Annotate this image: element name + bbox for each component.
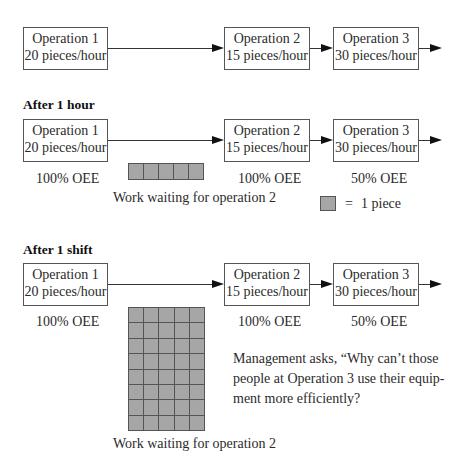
operation-name: Operation 2 (225, 30, 309, 47)
piece-icon (144, 164, 158, 179)
piece-icon (129, 370, 143, 384)
operation-rate: 30 pieces/hour (334, 283, 418, 300)
piece-icon (144, 370, 158, 384)
piece-icon (190, 370, 204, 384)
operation-1-box: Operation 1 20 pieces/hour (23, 27, 108, 70)
operation-2-box: Operation 2 15 pieces/hour (224, 119, 310, 162)
flow-arrow-line (108, 48, 220, 49)
stage-heading: After 1 shift (23, 242, 92, 258)
operation-name: Operation 1 (24, 30, 107, 47)
flow-arrow-line (108, 284, 220, 285)
piece-icon (144, 354, 158, 368)
piece-icon (144, 308, 158, 322)
piece-icon (144, 400, 158, 414)
work-queue-label: Work waiting for operation 2 (113, 190, 276, 206)
piece-icon (175, 400, 189, 414)
flow-arrow-line (108, 140, 220, 141)
piece-icon (129, 416, 143, 430)
operation-rate: 15 pieces/hour (225, 139, 309, 156)
piece-icon (175, 370, 189, 384)
piece-icon (190, 400, 204, 414)
piece-icon (129, 164, 143, 179)
piece-icon (189, 164, 203, 179)
piece-icon (159, 370, 173, 384)
piece-icon (129, 354, 143, 368)
arrow-head-icon (430, 136, 442, 144)
piece-icon (190, 323, 204, 337)
piece-icon (159, 354, 173, 368)
management-note: Management asks, “Why can’t those people… (233, 349, 444, 409)
operation-rate: 20 pieces/hour (24, 139, 107, 156)
piece-icon (190, 385, 204, 399)
piece-icon (144, 339, 158, 353)
operation-1-box: Operation 1 20 pieces/hour (23, 119, 108, 162)
piece-icon (159, 385, 173, 399)
piece-legend-icon (320, 196, 336, 211)
operation-2-box: Operation 2 15 pieces/hour (224, 27, 310, 70)
piece-icon (175, 308, 189, 322)
piece-icon (144, 385, 158, 399)
piece-icon (190, 416, 204, 430)
operation-3-box: Operation 3 30 pieces/hour (333, 27, 419, 70)
operation-rate: 20 pieces/hour (24, 283, 107, 300)
piece-icon (129, 385, 143, 399)
note-line: people at Operation 3 use their equip- (233, 369, 444, 389)
piece-icon (159, 416, 173, 430)
operation-name: Operation 3 (334, 266, 418, 283)
operation-rate: 30 pieces/hour (334, 47, 418, 64)
piece-icon (190, 308, 204, 322)
operation-rate: 20 pieces/hour (24, 47, 107, 64)
piece-icon (175, 323, 189, 337)
piece-icon (144, 323, 158, 337)
oee-label-operation-2: 100% OEE (238, 171, 301, 187)
piece-icon (175, 354, 189, 368)
stage-heading: After 1 hour (23, 97, 95, 113)
operation-name: Operation 2 (225, 122, 309, 139)
operation-2-box: Operation 2 15 pieces/hour (224, 263, 310, 306)
piece-icon (159, 164, 173, 179)
piece-icon (159, 323, 173, 337)
operation-rate: 15 pieces/hour (225, 283, 309, 300)
piece-icon (129, 400, 143, 414)
piece-icon (190, 354, 204, 368)
oee-label-operation-3: 50% OEE (351, 314, 407, 330)
piece-icon (129, 308, 143, 322)
piece-icon (129, 323, 143, 337)
note-line: ment more efficiently? (233, 389, 444, 409)
legend-equals: = (345, 196, 353, 212)
operation-rate: 15 pieces/hour (225, 47, 309, 64)
arrow-head-icon (212, 44, 224, 52)
oee-label-operation-1: 100% OEE (36, 171, 99, 187)
arrow-head-icon (212, 280, 224, 288)
arrow-head-icon (321, 44, 333, 52)
oee-label-operation-1: 100% OEE (36, 314, 99, 330)
oee-label-operation-2: 100% OEE (238, 314, 301, 330)
piece-icon (175, 385, 189, 399)
work-queue-pieces (128, 307, 205, 431)
piece-icon (175, 339, 189, 353)
work-queue-pieces (128, 163, 204, 180)
arrow-head-icon (430, 44, 442, 52)
piece-icon (190, 339, 204, 353)
operation-3-box: Operation 3 30 pieces/hour (333, 263, 419, 306)
operation-name: Operation 1 (24, 266, 107, 283)
piece-icon (129, 339, 143, 353)
piece-icon (174, 164, 188, 179)
note-line: Management asks, “Why can’t those (233, 349, 444, 369)
work-queue-label: Work waiting for operation 2 (113, 436, 276, 451)
piece-icon (159, 400, 173, 414)
arrow-head-icon (212, 136, 224, 144)
piece-icon (159, 339, 173, 353)
piece-icon (159, 308, 173, 322)
operation-3-box: Operation 3 30 pieces/hour (333, 119, 419, 162)
arrow-head-icon (321, 280, 333, 288)
legend-label: 1 piece (361, 196, 401, 212)
operation-name: Operation 1 (24, 122, 107, 139)
operation-1-box: Operation 1 20 pieces/hour (23, 263, 108, 306)
arrow-head-icon (430, 280, 442, 288)
piece-icon (144, 416, 158, 430)
operation-name: Operation 2 (225, 266, 309, 283)
arrow-head-icon (321, 136, 333, 144)
operation-name: Operation 3 (334, 30, 418, 47)
piece-icon (175, 416, 189, 430)
